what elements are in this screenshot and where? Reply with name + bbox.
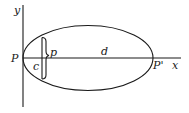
ellipse-diagram: y x P P' c p d xyxy=(0,0,189,113)
y-axis-label: y xyxy=(13,4,21,17)
major-axis-label-d: d xyxy=(101,45,108,58)
point-p-prime-label: P' xyxy=(152,59,163,72)
x-axis-label: x xyxy=(172,59,179,72)
focal-offset-label-c: c xyxy=(33,60,39,73)
point-p-label: P xyxy=(10,52,19,65)
semi-latus-rectum-label-p: p xyxy=(50,46,57,59)
